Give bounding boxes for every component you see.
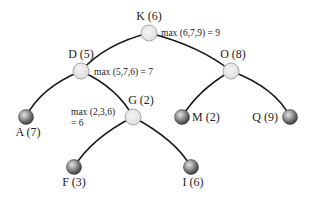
node-d [73, 63, 89, 79]
node-label-f: F (3) [62, 175, 86, 189]
tree-nodes [19, 25, 298, 175]
node-label-a: A (7) [16, 125, 41, 139]
leaf-node-f [67, 160, 82, 175]
node-label-g: G (2) [128, 93, 154, 107]
node-label-k: K (6) [136, 9, 162, 23]
leaf-node-a [19, 110, 34, 125]
leaf-node-q [283, 110, 298, 125]
node-label-i: I (6) [183, 175, 204, 189]
node-label-q: Q (9) [252, 110, 278, 124]
node-g [125, 109, 141, 125]
node-label-d: D (5) [68, 47, 94, 61]
annotation-k: max (6,7,9) = 9 [161, 28, 220, 39]
node-label-m: M (2) [192, 110, 220, 124]
node-k [141, 25, 157, 41]
leaf-node-i [184, 160, 199, 175]
node-label-o: O (8) [220, 47, 246, 61]
leaf-node-m [175, 110, 190, 125]
tree-edges [26, 33, 290, 167]
edge-k-o [149, 33, 231, 71]
node-o [223, 63, 239, 79]
annotation-g: max (2,3,6)= 6 [71, 107, 115, 128]
max-heap-tree-diagram: K (6)D (5)O (8)G (2)A (7)M (2)Q (9)F (3)… [0, 0, 311, 201]
annotation-d: max (5,7,6) = 7 [94, 67, 153, 78]
